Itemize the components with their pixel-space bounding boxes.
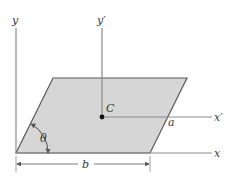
x-prime-axis-label: x′ bbox=[214, 111, 223, 124]
centroid-label: C bbox=[106, 102, 115, 115]
centroid-point bbox=[100, 115, 105, 120]
dimension-b-label: b bbox=[82, 158, 89, 171]
angle-theta-label: θ bbox=[40, 132, 47, 145]
x-axis-label: x bbox=[214, 147, 221, 160]
y-prime-axis-label: y′ bbox=[96, 14, 106, 27]
diagram-canvas: y y′ x′ x C a θ b bbox=[0, 0, 234, 184]
y-axis-label: y bbox=[11, 14, 19, 27]
side-a-label: a bbox=[168, 116, 175, 129]
